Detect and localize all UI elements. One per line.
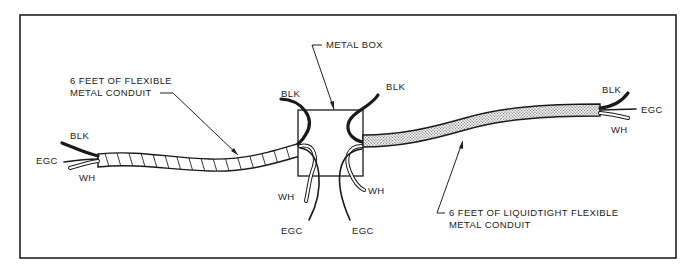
right-blk-wire — [600, 93, 628, 108]
lfmc-label-line1: 6 FEET OF LIQUIDTIGHT FLEXIBLE — [449, 207, 619, 218]
flexible-metal-conduit — [98, 137, 302, 175]
liquidtight-flexible-metal-conduit — [363, 104, 600, 147]
wiring-diagram: BLK EGC WH 6 FEET OF FLEXIBLE METAL COND… — [0, 0, 694, 270]
lfmc-label-line2: METAL CONDUIT — [449, 219, 531, 230]
right-egc-label: EGC — [641, 104, 663, 115]
right-egc-wire — [600, 109, 636, 110]
fmc-leader-arrow — [160, 93, 238, 155]
right-wh-label: WH — [611, 124, 628, 135]
box-right-egc-label: EGC — [352, 225, 374, 236]
left-wh-label: WH — [79, 172, 96, 183]
box-left-wh-label: WH — [278, 191, 295, 202]
fmc-label-line2: METAL CONDUIT — [70, 87, 152, 98]
metal-box-label: METAL BOX — [326, 39, 383, 50]
metal-box-leader-arrow — [312, 45, 334, 109]
lfmc-leader-arrow — [437, 143, 462, 213]
left-egc-label: EGC — [36, 155, 58, 166]
box-right-wh-label: WH — [368, 185, 385, 196]
fmc-label-line1: 6 FEET OF FLEXIBLE — [70, 75, 172, 86]
left-blk-label: BLK — [70, 130, 89, 141]
box-right-blk-label: BLK — [386, 81, 405, 92]
left-end-wires — [62, 143, 98, 168]
left-blk-wire — [62, 143, 98, 156]
right-blk-label: BLK — [602, 84, 621, 95]
box-left-blk-label: BLK — [281, 88, 300, 99]
right-end-wires — [600, 93, 636, 118]
box-left-egc-label: EGC — [281, 225, 303, 236]
